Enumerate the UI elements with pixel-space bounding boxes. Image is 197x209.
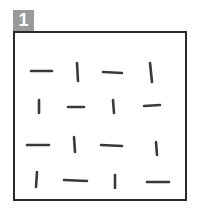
horizontal-line-mark	[144, 105, 160, 106]
vertical-line-mark	[156, 142, 157, 155]
vertical-line-mark	[113, 100, 114, 113]
line-segment-grid	[0, 0, 197, 209]
horizontal-line-mark	[101, 145, 122, 146]
vertical-line-mark	[36, 172, 37, 187]
vertical-line-mark	[74, 137, 75, 152]
vertical-line-mark	[77, 63, 78, 81]
horizontal-line-mark	[64, 180, 87, 181]
vertical-line-mark	[150, 63, 152, 82]
horizontal-line-mark	[103, 72, 122, 73]
